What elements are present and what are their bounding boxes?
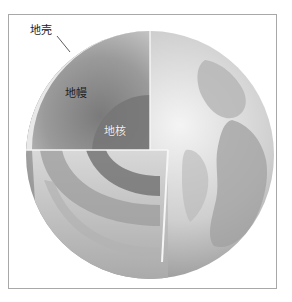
- label-mantle: 地幔: [65, 84, 87, 100]
- label-core: 地核: [104, 122, 126, 138]
- label-crust: 地壳: [30, 21, 52, 37]
- earth-cutaway-illustration: [0, 0, 292, 302]
- crust-leader-line: [57, 36, 70, 52]
